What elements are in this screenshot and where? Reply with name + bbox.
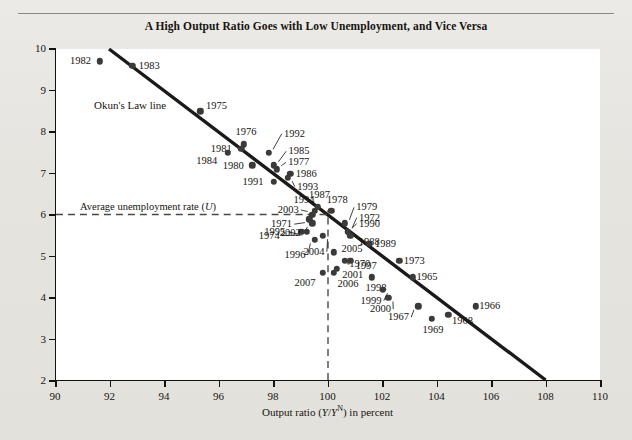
x-tick-label: 110 [585, 390, 615, 402]
x-tick-mark [328, 380, 329, 387]
x-tick-label: 108 [531, 390, 561, 402]
x-tick-label: 98 [258, 390, 288, 402]
y-tick-label: 9 [20, 84, 46, 96]
data-point-label: 1977 [288, 157, 309, 168]
data-point-label: 1996 [284, 250, 305, 261]
x-tick-mark [382, 380, 383, 387]
x-tick-label: 92 [95, 390, 125, 402]
y-tick-label: 7 [20, 167, 46, 179]
data-point-label: 1989 [375, 239, 396, 250]
data-point-label: 1982 [70, 56, 91, 67]
y-tick-mark [49, 131, 56, 132]
y-tick-mark [49, 256, 56, 257]
data-point-label: 1967 [388, 312, 409, 323]
data-point-label: 1993 [297, 181, 318, 192]
plot-wrapper: Unemployment rate (U) in percent Output … [0, 0, 632, 440]
data-point-label: 1966 [479, 301, 500, 312]
data-point-label: 1983 [139, 60, 160, 71]
y-tick-label: 5 [20, 250, 46, 262]
label-leader-line [281, 162, 286, 166]
y-tick-mark [49, 48, 56, 49]
data-point-label: 1965 [416, 272, 437, 283]
data-point-label: 1991 [243, 177, 264, 188]
data-point-label: 1992 [284, 129, 305, 140]
x-tick-label: 90 [40, 390, 70, 402]
x-tick-mark [546, 380, 547, 387]
x-tick-mark [437, 380, 438, 387]
x-tick-label: 106 [476, 390, 506, 402]
x-tick-label: 102 [367, 390, 397, 402]
x-tick-mark [55, 380, 56, 387]
data-point-label: 1968 [452, 315, 473, 326]
data-point-label: 2007 [295, 278, 316, 289]
x-tick-label: 104 [422, 390, 452, 402]
y-tick-mark [49, 173, 56, 174]
x-tick-mark [600, 380, 601, 387]
x-tick-label: 94 [149, 390, 179, 402]
y-tick-mark [49, 297, 56, 298]
y-tick-label: 6 [20, 208, 46, 220]
y-tick-mark [49, 90, 56, 91]
data-point-label: 1980 [223, 161, 244, 172]
x-tick-label: 100 [313, 390, 343, 402]
data-point-label: 1973 [404, 255, 425, 266]
y-tick-label: 2 [20, 374, 46, 386]
y-tick-label: 4 [20, 291, 46, 303]
average-caption-pre: Average unemployment rate ( [80, 201, 205, 212]
y-tick-label: 8 [20, 125, 46, 137]
label-leader-line [294, 223, 305, 225]
data-point-label: 1985 [289, 146, 310, 157]
label-leader-line [273, 134, 282, 150]
x-tick-mark [164, 380, 165, 387]
label-leader-line [352, 218, 357, 229]
x-tick-label: 96 [204, 390, 234, 402]
label-leader-line [327, 239, 328, 252]
okun-law-caption: Okun's Law line [94, 99, 166, 111]
data-point-label: 1975 [206, 101, 227, 112]
x-axis-title: Output ratio (Y/YN) in percent [55, 404, 600, 418]
data-point-label: 2000 [370, 304, 391, 315]
x-tick-mark [273, 380, 274, 387]
data-point-label: 2004 [304, 247, 325, 258]
data-point-label: 1984 [196, 156, 217, 167]
label-leader-line [279, 151, 287, 162]
data-point-label: 2005 [341, 244, 362, 255]
data-point-label: 1976 [236, 127, 257, 138]
y-tick-label: 3 [20, 333, 46, 345]
figure-container: A High Output Ratio Goes with Low Unempl… [0, 0, 632, 440]
data-point-label: 2002 [280, 228, 301, 239]
data-point-label: 1986 [296, 168, 317, 179]
label-leader-line [349, 207, 354, 220]
y-tick-mark [49, 214, 56, 215]
label-leader-line [411, 310, 414, 318]
x-axis-title-pre: Output ratio ( [262, 406, 322, 418]
plot-area: 1965196619671968196919701971197219731974… [55, 49, 600, 381]
data-point-label: 1969 [423, 325, 444, 336]
data-point-label: 2003 [278, 205, 299, 216]
x-tick-mark [110, 380, 111, 387]
data-point-label: 1990 [359, 218, 380, 229]
label-leader-line [292, 181, 295, 187]
x-tick-mark [491, 380, 492, 387]
y-tick-label: 10 [20, 42, 46, 54]
x-axis-title-post: ) in percent [343, 406, 393, 418]
y-tick-mark [49, 339, 56, 340]
label-leader-line [301, 210, 308, 212]
average-unemployment-caption: Average unemployment rate (U) [80, 201, 216, 212]
x-tick-mark [219, 380, 220, 387]
data-point-label: 2006 [337, 279, 358, 290]
data-point-label: 1979 [356, 202, 377, 213]
average-caption-post: ) [212, 201, 216, 212]
